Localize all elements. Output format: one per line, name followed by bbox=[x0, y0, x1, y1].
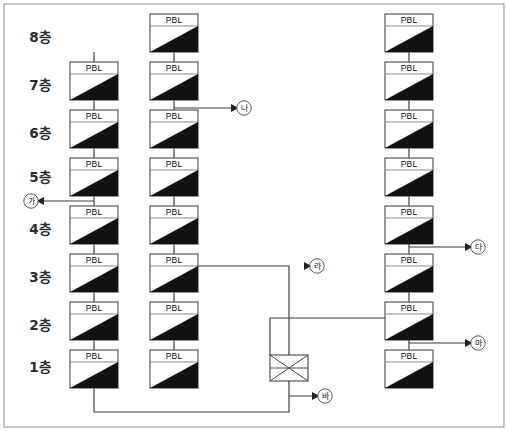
pbl-unit-label: PBL bbox=[166, 303, 183, 313]
pbl-unit[interactable]: PBL bbox=[385, 254, 433, 292]
reference-marker-ba[interactable]: 바 bbox=[318, 389, 332, 403]
pbl-unit-label: PBL bbox=[86, 303, 103, 313]
reference-marker-ma[interactable]: 마 bbox=[471, 336, 485, 350]
pbl-unit-label: PBL bbox=[86, 207, 103, 217]
floor-label: 8층 bbox=[29, 29, 50, 45]
pbl-unit-label: PBL bbox=[86, 159, 103, 169]
pbl-unit-label: PBL bbox=[401, 255, 418, 265]
floor-label: 7층 bbox=[29, 77, 50, 93]
reference-marker-ra[interactable]: 라 bbox=[310, 259, 324, 273]
pbl-unit[interactable]: PBL bbox=[150, 62, 198, 100]
marker-label-ma: 마 bbox=[475, 339, 483, 348]
pbl-unit-label: PBL bbox=[86, 351, 103, 361]
reference-marker-da[interactable]: 다 bbox=[471, 240, 485, 254]
pbl-unit-label: PBL bbox=[401, 63, 418, 73]
pbl-unit-label: PBL bbox=[86, 63, 103, 73]
pbl-unit-label: PBL bbox=[401, 15, 418, 25]
pbl-unit[interactable]: PBL bbox=[70, 110, 118, 148]
pbl-unit[interactable]: PBL bbox=[150, 14, 198, 52]
floor-label: 6층 bbox=[29, 125, 50, 141]
pbl-unit[interactable]: PBL bbox=[150, 302, 198, 340]
marker-label-da: 다 bbox=[475, 243, 483, 252]
pbl-unit-label: PBL bbox=[401, 159, 418, 169]
pbl-unit[interactable]: PBL bbox=[385, 158, 433, 196]
pbl-unit[interactable]: PBL bbox=[385, 206, 433, 244]
reference-marker-na[interactable]: 나 bbox=[237, 101, 251, 115]
pbl-unit[interactable]: PBL bbox=[70, 206, 118, 244]
marker-label-na: 나 bbox=[241, 104, 249, 113]
floor-label: 3층 bbox=[29, 269, 50, 285]
pbl-unit[interactable]: PBL bbox=[70, 254, 118, 292]
pbl-unit-label: PBL bbox=[401, 303, 418, 313]
pbl-unit-label: PBL bbox=[166, 111, 183, 121]
marker-label-ga: 가 bbox=[28, 197, 36, 206]
pbl-unit-label: PBL bbox=[166, 63, 183, 73]
floor-label: 2층 bbox=[29, 317, 50, 333]
left-1f-return-loop bbox=[94, 388, 289, 412]
pbl-unit-label: PBL bbox=[166, 207, 183, 217]
pbl-unit-label: PBL bbox=[86, 255, 103, 265]
pbl-unit[interactable]: PBL bbox=[385, 350, 433, 388]
floor-label: 1층 bbox=[29, 359, 50, 375]
pbl-unit[interactable]: PBL bbox=[150, 110, 198, 148]
unit-box-layer: PBLPBLPBLPBLPBLPBLPBLPBLPBLPBLPBLPBLPBLP… bbox=[70, 14, 433, 388]
pbl-unit-label: PBL bbox=[166, 159, 183, 169]
pbl-unit[interactable]: PBL bbox=[70, 350, 118, 388]
pbl-unit[interactable]: PBL bbox=[385, 110, 433, 148]
pbl-unit[interactable]: PBL bbox=[150, 158, 198, 196]
pbl-unit[interactable]: PBL bbox=[150, 254, 198, 292]
pbl-unit[interactable]: PBL bbox=[385, 302, 433, 340]
pbl-unit-label: PBL bbox=[86, 111, 103, 121]
pbl-unit[interactable]: PBL bbox=[70, 158, 118, 196]
pbl-unit[interactable]: PBL bbox=[150, 350, 198, 388]
reference-marker-ga[interactable]: 가 bbox=[24, 194, 38, 208]
marker-label-ba: 바 bbox=[322, 391, 330, 401]
mixing-valve[interactable] bbox=[270, 355, 308, 381]
diagram-canvas: PBLPBLPBLPBLPBLPBLPBLPBLPBLPBLPBLPBLPBLP… bbox=[0, 0, 508, 431]
floor-label: 5층 bbox=[29, 169, 50, 185]
pbl-unit[interactable]: PBL bbox=[385, 62, 433, 100]
pbl-unit-label: PBL bbox=[166, 255, 183, 265]
floor-label: 4층 bbox=[29, 221, 50, 237]
pbl-riser-diagram: PBLPBLPBLPBLPBLPBLPBLPBLPBLPBLPBLPBLPBLP… bbox=[0, 0, 508, 431]
pbl-unit[interactable]: PBL bbox=[150, 206, 198, 244]
pbl-unit-label: PBL bbox=[401, 351, 418, 361]
pbl-unit[interactable]: PBL bbox=[70, 302, 118, 340]
pbl-unit-label: PBL bbox=[401, 111, 418, 121]
pbl-unit[interactable]: PBL bbox=[70, 62, 118, 100]
pbl-unit-label: PBL bbox=[166, 351, 183, 361]
pbl-unit[interactable]: PBL bbox=[385, 14, 433, 52]
valve-outlet-to-ba bbox=[289, 381, 312, 396]
pbl-unit-label: PBL bbox=[401, 207, 418, 217]
marker-label-ra: 라 bbox=[314, 262, 322, 271]
pbl-unit-label: PBL bbox=[166, 15, 183, 25]
